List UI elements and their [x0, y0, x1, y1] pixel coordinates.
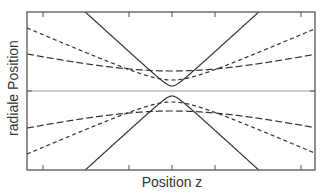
- beam-small-waist-upper-envelope: [27, 0, 315, 86]
- x-axis-label: Position z: [122, 174, 222, 190]
- y-axis-label: radiale Position: [5, 13, 21, 163]
- beam-large-waist-lower-envelope: [27, 111, 315, 128]
- beam-medium-waist-upper-envelope: [27, 28, 315, 80]
- beam-large-waist-upper-envelope: [27, 54, 315, 71]
- beam-profile-chart: [0, 0, 323, 194]
- beam-medium-waist-lower-envelope: [27, 102, 315, 154]
